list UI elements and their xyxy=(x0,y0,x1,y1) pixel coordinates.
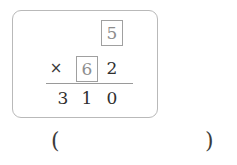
product-ones-digit: 0 xyxy=(102,90,122,107)
product-hundreds-digit: 3 xyxy=(53,90,73,107)
multiplier-tens-answer-box[interactable]: 6 xyxy=(76,56,98,82)
answer-blank[interactable]: ( ) xyxy=(0,126,237,165)
vertical-multiplication-layout: 5 × 6 2 3 1 0 xyxy=(13,11,159,119)
sum-rule-line xyxy=(46,83,133,84)
multiplication-operator: × xyxy=(46,61,66,76)
multiplier-ones-digit: 2 xyxy=(102,60,122,77)
carry-answer-box[interactable]: 5 xyxy=(101,20,123,46)
answer-open-paren: ( xyxy=(51,126,60,156)
problem-card: 5 × 6 2 3 1 0 xyxy=(12,10,158,118)
product-tens-digit: 1 xyxy=(77,90,97,107)
answer-close-paren: ) xyxy=(205,126,214,156)
